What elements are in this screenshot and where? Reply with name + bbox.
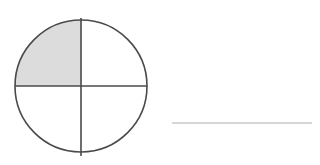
quadrant-upper-right — [81, 20, 147, 86]
figure-canvas: Fraction model: circle with one quarter … — [0, 0, 320, 165]
quadrant-lower-left — [15, 86, 81, 152]
fraction-diagram-svg — [0, 0, 320, 165]
quadrant-upper-left-shaded — [15, 20, 81, 86]
quadrant-lower-right — [81, 86, 147, 152]
